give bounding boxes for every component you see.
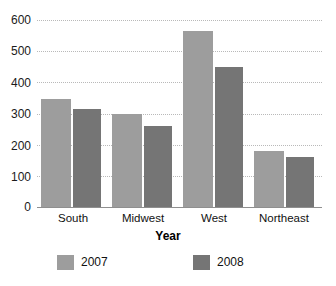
y-tick-600: 600 (0, 14, 31, 26)
gridline-400 (37, 82, 322, 83)
x-tick-west: West (183, 212, 245, 225)
legend-label-2008: 2008 (217, 255, 244, 269)
y-tick-200: 200 (0, 140, 31, 152)
x-tick-midwest: Midwest (110, 212, 176, 225)
x-tick-south: South (41, 212, 105, 225)
legend-swatch-icon-2007 (57, 255, 74, 270)
bar-northeast-2007 (254, 151, 284, 207)
bar-midwest-2008 (144, 126, 172, 207)
bar-chart: 600 500 400 300 200 100 0 South Midwest … (0, 0, 336, 286)
bar-northeast-2008 (286, 157, 314, 207)
gridline-600 (37, 20, 322, 21)
y-tick-400: 400 (0, 77, 31, 89)
y-tick-500: 500 (0, 45, 31, 57)
bar-midwest-2007 (112, 114, 142, 208)
legend-item-2007: 2007 (57, 252, 108, 272)
chart-legend: 2007 2008 (0, 252, 336, 276)
plot-area (37, 20, 322, 207)
bar-south-2007 (41, 99, 71, 207)
gridline-500 (37, 51, 322, 52)
y-axis-tick-labels: 600 500 400 300 200 100 0 (0, 0, 33, 286)
bar-west-2008 (215, 67, 243, 207)
x-axis-title: Year (0, 229, 336, 243)
y-tick-100: 100 (0, 171, 31, 183)
legend-swatch-icon-2008 (193, 255, 210, 270)
y-tick-0: 0 (0, 201, 31, 213)
legend-item-2008: 2008 (193, 252, 244, 272)
bar-south-2008 (73, 109, 101, 207)
gridline-axis-zero (37, 207, 322, 208)
x-tick-northeast: Northeast (248, 212, 320, 225)
bar-west-2007 (183, 31, 213, 207)
legend-label-2007: 2007 (81, 255, 108, 269)
y-tick-300: 300 (0, 108, 31, 120)
